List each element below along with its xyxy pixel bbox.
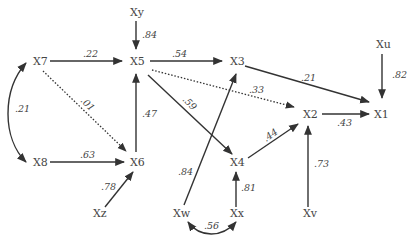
label-xw-x3: .84 — [178, 166, 193, 177]
label-x5-x4: .59 — [181, 94, 199, 112]
label-xy-x5: .84 — [142, 29, 157, 40]
label-x7-x6: .01 — [79, 95, 97, 113]
label-x5-x2: .33 — [249, 84, 264, 95]
label-x5-x3: .54 — [172, 48, 187, 59]
label-x4-x2: .44 — [261, 126, 280, 144]
label-x7-x8: .21 — [15, 103, 30, 114]
edge-xw-x3 — [184, 74, 236, 205]
label-x8-x6: .63 — [80, 149, 95, 160]
label-x2-x1: .43 — [337, 117, 352, 128]
node-x2: X2 — [303, 108, 318, 121]
node-x3: X3 — [230, 55, 245, 68]
node-x8: X8 — [33, 156, 48, 169]
label-xv-x2: .73 — [314, 158, 329, 169]
edge-x5-x2 — [152, 70, 294, 107]
label-x6-x5: .47 — [142, 108, 158, 119]
label-x7-x5: .22 — [83, 48, 98, 59]
node-x7: X7 — [33, 55, 48, 68]
label-xx-x4: .81 — [241, 182, 256, 193]
edge-x7-x6 — [43, 71, 126, 151]
node-x1: X1 — [374, 108, 389, 121]
node-xu: Xu — [376, 38, 391, 51]
label-xu-x1: .82 — [392, 69, 407, 80]
node-xx: Xx — [230, 207, 245, 220]
node-xz: Xz — [93, 207, 107, 220]
label-xw-xx: .56 — [204, 220, 219, 231]
node-xw: Xw — [173, 207, 191, 220]
node-x4: X4 — [230, 156, 245, 169]
node-xy: Xy — [130, 6, 145, 19]
node-xv: Xv — [303, 207, 318, 220]
label-x3-x1: .21 — [301, 72, 316, 83]
node-x5: X5 — [130, 55, 145, 68]
path-diagram: .84 .22 .54 .21 .82 .33 .01 .59 .47 .43 … — [0, 0, 411, 239]
label-xz-x6: .78 — [101, 181, 116, 192]
node-x6: X6 — [130, 156, 145, 169]
